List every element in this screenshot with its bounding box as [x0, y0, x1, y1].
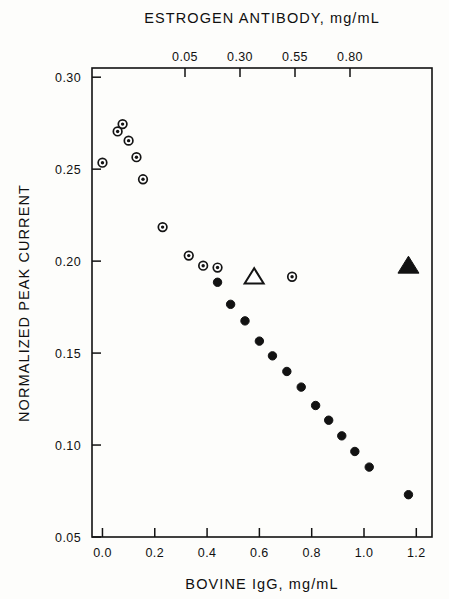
data-point-circle-dot — [199, 261, 208, 270]
top-tick-label: 0.05 — [172, 50, 198, 64]
series-filled-triangle-marker — [398, 256, 419, 273]
data-point-filled-circle — [365, 463, 373, 471]
x-tick-label: 0.4 — [198, 546, 217, 560]
data-point-filled-circle — [268, 352, 276, 360]
series-bovine-igg-series — [213, 278, 412, 499]
data-point-filled-circle — [241, 317, 249, 325]
top-axis-title-text: ESTROGEN ANTIBODY, mg/mL — [144, 10, 380, 26]
data-point-filled-circle — [226, 300, 234, 308]
top-axis-ticks — [185, 68, 350, 77]
series-open-triangle-marker — [245, 268, 264, 283]
data-point-circle-dot — [124, 136, 133, 145]
data-point-circle-dot — [158, 223, 167, 232]
x-axis-tick-labels: 0.00.20.40.60.81.01.2 — [93, 546, 425, 560]
data-point-filled-circle — [311, 401, 319, 409]
data-point-filled-circle — [404, 490, 412, 498]
data-point-filled-circle — [255, 337, 263, 345]
data-point-filled-circle — [338, 432, 346, 440]
y-axis-title-text: NORMALIZED PEAK CURRENT — [16, 184, 32, 422]
top-tick-label: 0.30 — [227, 50, 253, 64]
x-tick-label: 1.2 — [407, 546, 426, 560]
x-tick-label: 0.2 — [145, 546, 164, 560]
y-axis-tick-labels: 0.300.250.200.150.100.05 — [55, 71, 81, 545]
data-point-circle-dot — [98, 158, 107, 167]
y-tick-label: 0.20 — [55, 255, 81, 269]
y-tick-label: 0.05 — [55, 531, 81, 545]
top-tick-label: 0.55 — [282, 50, 308, 64]
data-point-filled-circle — [297, 383, 305, 391]
series-estrogen-antibody-series — [98, 120, 296, 281]
data-point-filled-circle — [283, 367, 291, 375]
x-tick-label: 0.6 — [250, 546, 269, 560]
data-point-circle-dot — [132, 153, 141, 162]
y-tick-label: 0.30 — [55, 71, 81, 85]
data-point-circle-dot — [139, 175, 148, 184]
x-tick-label: 0.0 — [93, 546, 112, 560]
figure-panel: ESTROGEN ANTIBODY, mg/mL 0.050.300.550.8… — [0, 0, 449, 599]
data-point-filled-circle — [213, 278, 221, 286]
data-point-filled-circle — [324, 416, 332, 424]
x-tick-label: 0.8 — [302, 546, 321, 560]
data-point-circle-dot — [213, 263, 222, 272]
x-axis-title-text: BOVINE IgG, mg/mL — [185, 576, 338, 592]
x-axis-ticks — [102, 528, 416, 537]
top-axis-tick-labels: 0.050.300.550.80 — [172, 50, 363, 64]
data-point-circle-dot — [118, 120, 127, 129]
data-point-filled-triangle — [398, 256, 419, 273]
x-axis-title: BOVINE IgG, mg/mL — [185, 576, 338, 592]
top-axis-title: ESTROGEN ANTIBODY, mg/mL — [144, 10, 380, 26]
y-tick-label: 0.15 — [55, 347, 81, 361]
data-point-circle-dot — [184, 251, 193, 260]
y-tick-label: 0.10 — [55, 439, 81, 453]
data-point-filled-circle — [351, 447, 359, 455]
top-tick-label: 0.80 — [337, 50, 363, 64]
data-point-circle-dot — [288, 272, 297, 281]
y-tick-label: 0.25 — [55, 163, 81, 177]
plot-frame — [92, 68, 432, 537]
data-series-layer — [98, 120, 419, 499]
scatter-plot: ESTROGEN ANTIBODY, mg/mL 0.050.300.550.8… — [0, 0, 449, 599]
x-tick-label: 1.0 — [355, 546, 374, 560]
data-point-open-triangle — [245, 268, 264, 283]
y-axis-ticks — [92, 77, 101, 537]
y-axis-title: NORMALIZED PEAK CURRENT — [16, 184, 32, 422]
